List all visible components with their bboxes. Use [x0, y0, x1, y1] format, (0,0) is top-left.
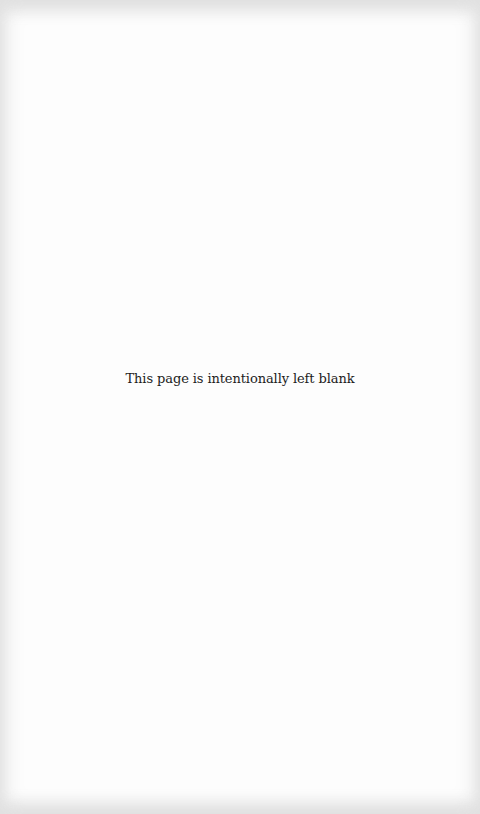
document-page: This page is intentionally left blank [0, 0, 480, 814]
intentionally-blank-notice: This page is intentionally left blank [0, 369, 480, 389]
